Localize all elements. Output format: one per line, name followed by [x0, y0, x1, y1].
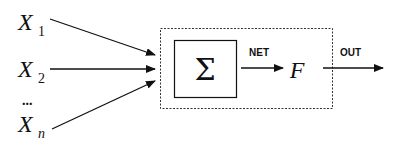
- svg-text:2: 2: [38, 71, 45, 86]
- sigma-symbol: Σ: [194, 52, 215, 87]
- arrow-x1: [50, 19, 155, 55]
- input-xn: X n: [17, 111, 45, 141]
- svg-text:X: X: [17, 56, 34, 82]
- svg-text:n: n: [38, 126, 45, 141]
- ellipsis: ...: [22, 93, 33, 108]
- svg-text:1: 1: [38, 24, 45, 39]
- net-label: NET: [249, 47, 269, 58]
- svg-text:X: X: [17, 9, 34, 35]
- input-x2: X 2: [17, 56, 45, 86]
- activation-function: F: [289, 57, 305, 83]
- arrow-xn: [52, 81, 155, 129]
- neuron-diagram: X 1 X 2 ... X n Σ NET F OUT: [0, 0, 398, 148]
- input-x1: X 1: [17, 9, 45, 39]
- out-label: OUT: [340, 47, 361, 58]
- svg-text:X: X: [17, 111, 34, 137]
